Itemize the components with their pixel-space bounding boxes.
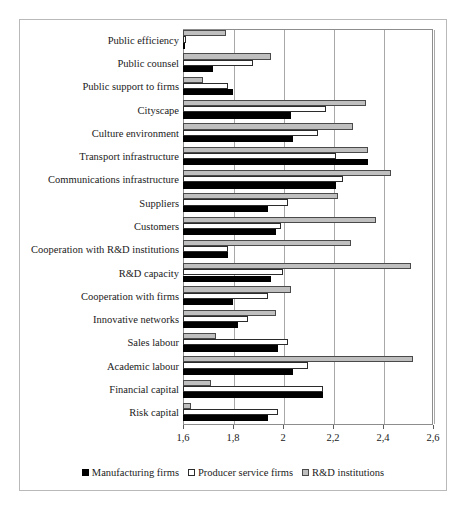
bar-group — [183, 402, 433, 425]
bar-group — [183, 192, 433, 215]
legend-label: Manufacturing firms — [92, 466, 179, 479]
bar-group — [183, 262, 433, 285]
legend-item: Producer service firms — [188, 466, 293, 479]
bar-group — [183, 169, 433, 192]
tick-mark — [333, 425, 334, 429]
bar-manufacturing — [183, 206, 268, 212]
gridline — [434, 30, 435, 424]
tick-label: 2,2 — [326, 432, 339, 444]
bar-chart: Public efficiencyPublic counselPublic su… — [0, 0, 465, 515]
bar-manufacturing — [183, 229, 276, 235]
category-label: Academic labour — [107, 361, 179, 373]
bar-manufacturing — [183, 276, 271, 282]
legend-swatch-manufacturing — [82, 469, 89, 476]
bar-manufacturing — [183, 322, 238, 328]
tick-label: 1,8 — [226, 432, 239, 444]
bar-group — [183, 52, 433, 75]
category-label: Public support to firms — [82, 81, 179, 93]
bar-manufacturing — [183, 43, 185, 49]
category-label: Sales labour — [127, 337, 179, 349]
category-label: Culture environment — [92, 128, 179, 140]
category-label: Customers — [134, 221, 179, 233]
bar-manufacturing — [183, 136, 293, 142]
category-label: R&D capacity — [119, 268, 179, 280]
category-label: Cooperation with R&D institutions — [31, 244, 179, 256]
bar-group — [183, 122, 433, 145]
tick-mark — [283, 425, 284, 429]
bar-manufacturing — [183, 299, 233, 305]
category-label: Public efficiency — [108, 35, 179, 47]
tick-label: 2,6 — [426, 432, 439, 444]
tick-label: 1,6 — [176, 432, 189, 444]
bar-manufacturing — [183, 369, 293, 375]
bar-group — [183, 76, 433, 99]
bar-manufacturing — [183, 252, 228, 258]
legend-label: Producer service firms — [198, 466, 293, 479]
bar-manufacturing — [183, 345, 278, 351]
category-labels: Public efficiencyPublic counselPublic su… — [19, 29, 183, 425]
bar-manufacturing — [183, 159, 368, 165]
legend-swatch-producer — [188, 469, 195, 476]
legend: Manufacturing firmsProducer service firm… — [19, 466, 447, 479]
bar-group — [183, 239, 433, 262]
x-axis: 1,61,822,22,42,6 — [183, 429, 433, 449]
category-label: Transport infrastructure — [79, 151, 179, 163]
bar-group — [183, 145, 433, 168]
bar-group — [183, 99, 433, 122]
tick-mark — [433, 425, 434, 429]
tick-label: 2 — [280, 432, 285, 444]
bar-manufacturing — [183, 112, 291, 118]
category-label: Public counsel — [117, 58, 179, 70]
tick-mark — [233, 425, 234, 429]
category-label: Financial capital — [109, 384, 179, 396]
legend-label: R&D institutions — [312, 466, 384, 479]
tick-mark — [383, 425, 384, 429]
bar-group — [183, 309, 433, 332]
bar-group — [183, 355, 433, 378]
bars-layer — [183, 29, 433, 425]
legend-item: Manufacturing firms — [82, 466, 179, 479]
bar-manufacturing — [183, 392, 323, 398]
bar-rd — [183, 30, 226, 36]
category-label: Suppliers — [139, 198, 179, 210]
category-label: Communications infrastructure — [48, 174, 179, 186]
legend-swatch-rd — [302, 469, 309, 476]
bar-group — [183, 285, 433, 308]
category-label: Risk capital — [129, 407, 179, 419]
bar-manufacturing — [183, 66, 213, 72]
bar-manufacturing — [183, 415, 268, 421]
legend-item: R&D institutions — [302, 466, 384, 479]
bar-group — [183, 378, 433, 401]
category-label: Innovative networks — [93, 314, 179, 326]
bar-group — [183, 215, 433, 238]
category-label: Cityscape — [138, 105, 179, 117]
tick-mark — [183, 425, 184, 429]
tick-label: 2,4 — [376, 432, 389, 444]
bar-group — [183, 29, 433, 52]
category-label: Cooperation with firms — [81, 291, 179, 303]
bar-manufacturing — [183, 89, 233, 95]
bar-manufacturing — [183, 182, 336, 188]
bar-group — [183, 332, 433, 355]
